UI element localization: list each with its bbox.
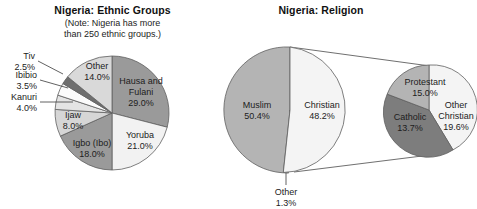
label-other-ethnic-value: 14.0% xyxy=(84,72,110,82)
label-hausa-value: 29.0% xyxy=(128,98,154,108)
label-catholic-value: 13.7% xyxy=(397,123,423,133)
label-hausa-name-line1: Hausa and xyxy=(119,76,163,86)
label-christian-value: 48.2% xyxy=(309,111,335,121)
label-igbo-value: 18.0% xyxy=(79,149,105,159)
label-other-christian-value: 19.6% xyxy=(443,122,469,132)
label-muslim-name: Muslim xyxy=(243,100,272,110)
label-other-ethnic-name: Other xyxy=(86,61,109,71)
label-other-christian-name-line1: Other xyxy=(445,100,468,110)
label-other-religion-name: Other xyxy=(275,187,298,197)
label-other-christian-name-line2: Christian xyxy=(438,111,474,121)
label-yoruba-value: 21.0% xyxy=(127,141,153,151)
religion-chart-panel: Nigeria: Religion Muslim 50.4% Christian… xyxy=(225,0,477,209)
label-yoruba-name: Yoruba xyxy=(126,130,154,140)
label-ibibio-name: Ibibio xyxy=(15,70,37,80)
label-igbo-name: Igbo (Ibo) xyxy=(73,138,112,148)
label-protestant-name: Protestant xyxy=(404,77,446,87)
label-muslim-value: 50.4% xyxy=(244,111,270,121)
label-hausa-name-line2: Fulani xyxy=(129,87,154,97)
ethnic-pie-svg: Tiv 2.5% Ibibio 3.5% Kanuri 4.0% Hausa a… xyxy=(0,0,225,209)
ethnic-groups-chart-panel: Nigeria: Ethnic Groups (Note: Nigeria ha… xyxy=(0,0,225,209)
label-kanuri-name: Kanuri xyxy=(11,92,37,102)
leader-line-tiv xyxy=(38,61,63,74)
label-christian-name: Christian xyxy=(304,100,340,110)
label-ibibio-value: 3.5% xyxy=(16,81,37,91)
label-kanuri-value: 4.0% xyxy=(16,103,37,113)
label-ijaw-name: Ijaw xyxy=(65,110,82,120)
label-ijaw-value: 8.0% xyxy=(63,121,84,131)
religion-pie-svg: Muslim 50.4% Christian 48.2% Other 1.3% … xyxy=(225,0,477,209)
label-catholic-name: Catholic xyxy=(394,112,427,122)
label-other-religion-value: 1.3% xyxy=(276,198,297,208)
label-tiv-name: Tiv xyxy=(23,51,35,61)
label-protestant-value: 15.0% xyxy=(412,88,438,98)
